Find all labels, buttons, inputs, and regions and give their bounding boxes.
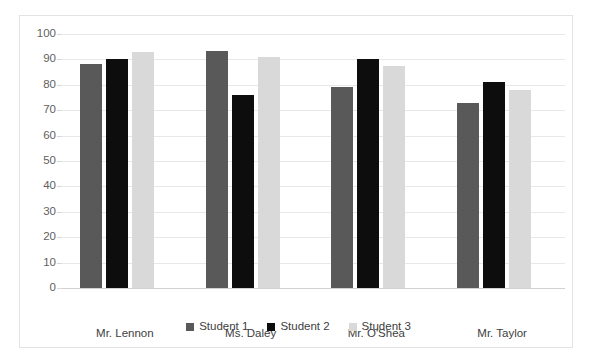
y-axis-tick-label: 100	[14, 28, 56, 40]
bar	[258, 57, 280, 288]
legend-item[interactable]: Student 2	[267, 321, 329, 333]
legend-swatch-icon	[349, 323, 357, 331]
y-axis-tick-mark	[57, 263, 62, 264]
y-axis-tick-mark	[57, 186, 62, 187]
scan-top-artifact	[150, 0, 270, 3]
y-axis-tick-label: 70	[14, 104, 56, 116]
bar	[457, 103, 479, 288]
y-axis-tick-mark	[57, 288, 62, 289]
legend-item[interactable]: Student 1	[186, 321, 248, 333]
y-axis-tick-mark	[57, 136, 62, 137]
y-axis: 1009080706050403020100	[8, 34, 56, 288]
y-axis-tick-mark	[57, 110, 62, 111]
y-axis-tick-label: 40	[14, 181, 56, 193]
bar-group	[457, 34, 531, 288]
bar	[106, 59, 128, 288]
bar	[509, 90, 531, 288]
legend-swatch-icon	[186, 323, 194, 331]
y-axis-tick-mark	[57, 237, 62, 238]
bar	[132, 52, 154, 288]
bar	[331, 87, 353, 288]
plot-area: Mr. LennonMs. DaleyMr. O'SheaMr. Taylor	[62, 34, 565, 288]
bar-group	[331, 34, 405, 288]
bar	[232, 95, 254, 288]
legend-item[interactable]: Student 3	[349, 321, 411, 333]
y-axis-tick-label: 30	[14, 206, 56, 218]
bar	[206, 51, 228, 288]
y-axis-tick-label: 90	[14, 54, 56, 66]
y-axis-tick-mark	[57, 161, 62, 162]
gridline	[62, 288, 565, 289]
bar-group	[206, 34, 280, 288]
y-axis-tick-label: 0	[14, 282, 56, 294]
legend-label: Student 2	[280, 321, 329, 333]
y-axis-tick-label: 10	[14, 257, 56, 269]
y-axis-tick-mark	[57, 59, 62, 60]
bar	[357, 59, 379, 288]
bar	[383, 66, 405, 288]
legend-swatch-icon	[267, 323, 275, 331]
y-axis-tick-label: 50	[14, 155, 56, 167]
y-axis-tick-label: 80	[14, 79, 56, 91]
legend-label: Student 3	[362, 321, 411, 333]
bar-group	[80, 34, 154, 288]
y-axis-tick-label: 60	[14, 130, 56, 142]
bar-chart-figure: 1009080706050403020100 Mr. LennonMs. Dal…	[0, 0, 597, 363]
chart-legend: Student 1Student 2Student 3	[0, 321, 597, 333]
y-axis-tick-mark	[57, 34, 62, 35]
y-axis-tick-mark	[57, 85, 62, 86]
y-axis-tick-label: 20	[14, 231, 56, 243]
bar	[483, 82, 505, 288]
bar	[80, 64, 102, 288]
y-axis-tick-mark	[57, 212, 62, 213]
legend-label: Student 1	[199, 321, 248, 333]
